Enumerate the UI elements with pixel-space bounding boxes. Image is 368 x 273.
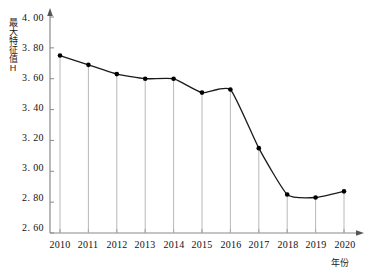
data-point: [313, 195, 318, 200]
y-axis: [47, 8, 53, 233]
data-point: [115, 72, 120, 77]
data-point: [228, 87, 233, 92]
data-point: [342, 189, 347, 194]
data-point: [171, 76, 176, 81]
data-point: [257, 146, 262, 151]
line-chart: 最大特征值H 4. 00 3. 80 3. 60 3. 40 3. 20 3. …: [0, 0, 368, 273]
drop-lines: [60, 56, 344, 233]
x-axis: [50, 230, 364, 236]
data-point: [200, 90, 205, 95]
data-point: [285, 192, 290, 197]
chart-canvas: [0, 0, 368, 273]
data-point: [58, 53, 63, 58]
data-point: [143, 76, 148, 81]
data-point: [86, 63, 91, 68]
